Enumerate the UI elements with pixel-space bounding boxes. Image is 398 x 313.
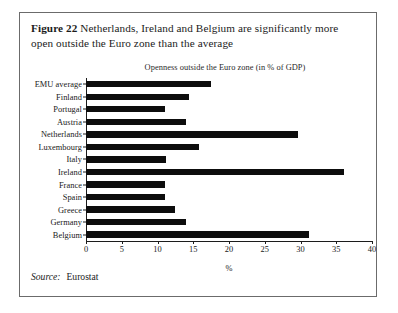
- bar-row: Belgium: [86, 228, 372, 241]
- y-axis-tick-label: Greece: [58, 205, 82, 214]
- plot-area: EMU averageFinlandPortugalAustriaNetherl…: [86, 78, 372, 241]
- x-axis-tick-label: 15: [189, 245, 197, 254]
- bar-row: Netherlands: [86, 128, 372, 141]
- bar: [86, 219, 186, 225]
- bar-row: Italy: [86, 153, 372, 166]
- x-axis-tick: [122, 241, 123, 244]
- bar-row: Portugal: [86, 103, 372, 116]
- y-axis-tick-label: Ireland: [58, 167, 82, 176]
- y-axis-tick: [83, 159, 86, 160]
- y-axis-tick-label: Austria: [57, 117, 82, 126]
- bar: [86, 106, 165, 112]
- x-axis-tick: [336, 241, 337, 244]
- bar: [86, 156, 166, 162]
- y-axis-tick: [83, 222, 86, 223]
- y-axis-tick-label: Netherlands: [41, 130, 82, 139]
- y-axis-tick: [83, 184, 86, 185]
- bar: [86, 131, 298, 137]
- x-axis-tick-label: 0: [84, 245, 88, 254]
- x-axis-label: %: [86, 264, 372, 273]
- y-axis-tick: [83, 209, 86, 210]
- source-label: Source:: [31, 271, 60, 282]
- bar-row: Finland: [86, 91, 372, 104]
- x-axis-tick-label: 10: [153, 245, 161, 254]
- y-axis-tick: [83, 134, 86, 135]
- x-axis-tick: [193, 241, 194, 244]
- figure-caption-text: Netherlands, Ireland and Belgium are sig…: [31, 22, 338, 49]
- x-axis-tick-label: 30: [296, 245, 304, 254]
- x-axis-tick: [229, 241, 230, 244]
- x-axis-tick: [86, 241, 87, 244]
- chart-title: Openness outside the Euro zone (in % of …: [20, 63, 376, 72]
- bar-row: Ireland: [86, 166, 372, 179]
- chart: Openness outside the Euro zone (in % of …: [20, 61, 376, 296]
- figure-caption: Figure 22 Netherlands, Ireland and Belgi…: [31, 21, 363, 50]
- y-axis-tick-label: EMU average: [35, 80, 82, 89]
- bar: [86, 194, 165, 200]
- bar-row: Austria: [86, 116, 372, 129]
- x-axis-tick: [158, 241, 159, 244]
- bar: [86, 81, 211, 87]
- y-axis-tick-label: Italy: [66, 155, 82, 164]
- bar: [86, 144, 199, 150]
- y-axis-tick: [83, 234, 86, 235]
- x-axis-tick: [301, 241, 302, 244]
- bar: [86, 169, 344, 175]
- source-value: Eurostat: [60, 271, 98, 282]
- y-axis-tick-label: Spain: [63, 193, 82, 202]
- y-axis-tick: [83, 197, 86, 198]
- y-axis-tick-label: Finland: [56, 92, 82, 101]
- x-axis-tick-label: 20: [225, 245, 233, 254]
- y-axis-tick: [83, 109, 86, 110]
- y-axis-tick: [83, 121, 86, 122]
- x-axis-tick-label: 40: [368, 245, 376, 254]
- bar-row: EMU average: [86, 78, 372, 91]
- y-axis-tick-label: France: [59, 180, 82, 189]
- x-axis-tick-label: 25: [261, 245, 269, 254]
- bar: [86, 119, 186, 125]
- y-axis-tick-label: Luxembourg: [38, 142, 82, 151]
- y-axis-tick: [83, 146, 86, 147]
- bar-row: Germany: [86, 216, 372, 229]
- y-axis-tick-label: Portugal: [53, 105, 82, 114]
- y-axis-tick: [83, 84, 86, 85]
- bar-series: EMU averageFinlandPortugalAustriaNetherl…: [86, 78, 372, 241]
- bar-row: Greece: [86, 203, 372, 216]
- bar: [86, 231, 309, 237]
- x-axis-tick-label: 35: [332, 245, 340, 254]
- bar-row: Luxembourg: [86, 141, 372, 154]
- bar-row: France: [86, 178, 372, 191]
- bar: [86, 181, 165, 187]
- source-note: Source:Eurostat: [31, 271, 98, 282]
- x-axis-ticks: 0510152025303540: [86, 241, 372, 263]
- x-axis-tick-label: 5: [120, 245, 124, 254]
- x-axis-tick: [265, 241, 266, 244]
- figure-panel: Figure 22 Netherlands, Ireland and Belgi…: [19, 12, 377, 297]
- y-axis-tick: [83, 171, 86, 172]
- y-axis-tick-label: Belgium: [53, 230, 82, 239]
- figure-label: Figure 22: [31, 22, 77, 34]
- bar: [86, 206, 175, 212]
- bar-row: Spain: [86, 191, 372, 204]
- bar: [86, 94, 189, 100]
- x-axis-tick: [372, 241, 373, 244]
- y-axis-tick-label: Germany: [50, 218, 82, 227]
- y-axis-tick: [83, 96, 86, 97]
